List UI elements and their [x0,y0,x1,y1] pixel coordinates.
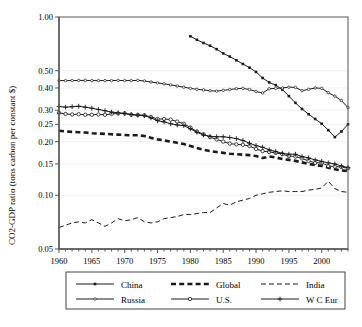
x-tick-label: 1975 [149,256,166,266]
y-tick-label: 0.10 [38,190,53,200]
x-tick-label: 1980 [182,256,199,266]
chart-figure: CO2-GDP ratio (tons carbon per constant … [0,0,362,327]
y-tick-label: 0.20 [38,137,53,147]
x-tick-label: 1985 [215,256,232,266]
y-tick-label: 0.15 [38,159,53,169]
legend-label: Russia [121,295,145,305]
x-tick-label: 2000 [313,256,330,266]
x-tick-label: 1995 [280,256,297,266]
chart-legend: ChinaGlobalIndiaRussiaU.S.W C Eur [66,272,345,309]
y-tick-label: 0.40 [38,83,53,93]
y-tick-label: 0.50 [38,66,53,76]
y-tick-label: 1.00 [38,12,53,22]
legend-label: Global [216,280,241,290]
y-tick-label: 0.25 [38,119,53,129]
chart-svg: CO2-GDP ratio (tons carbon per constant … [0,0,362,327]
legend-label: India [306,280,325,290]
x-tick-label: 1990 [248,256,265,266]
x-tick-label: 1960 [51,256,68,266]
x-tick-label: 1965 [83,256,100,266]
y-tick-label: 0.05 [38,244,53,254]
legend-label: W C Eur [306,295,338,305]
y-axis-title: CO2-GDP ratio (tons carbon per constant … [7,86,17,245]
x-tick-label: 1970 [116,256,133,266]
legend-label: U.S. [216,295,232,305]
legend-label: China [121,280,143,290]
y-tick-label: 0.30 [38,105,53,115]
